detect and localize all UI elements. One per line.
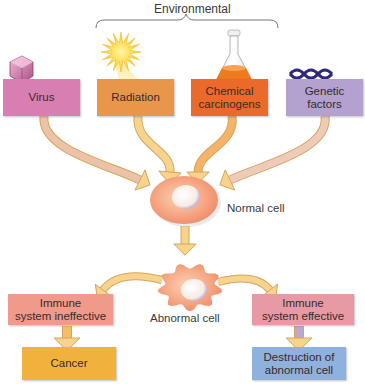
virus-label: Virus bbox=[29, 91, 55, 104]
environmental-bracket bbox=[96, 14, 278, 28]
cancer-label: Cancer bbox=[50, 357, 87, 370]
genetic-factors-box: Genetic factors bbox=[286, 79, 363, 116]
chemical-carcinogens-label: Chemical carcinogens bbox=[198, 85, 260, 111]
arrow-down bbox=[174, 226, 196, 255]
destruction-box: Destruction of abnormal cell bbox=[252, 347, 346, 380]
immune-effective-label: Immune system effective bbox=[262, 297, 344, 323]
immune-effective-box: Immune system effective bbox=[252, 294, 354, 325]
arrow-virus bbox=[44, 116, 150, 190]
radiation-box: Radiation bbox=[97, 79, 174, 116]
chemical-carcinogens-box: Chemical carcinogens bbox=[191, 79, 268, 116]
cancer-box: Cancer bbox=[22, 347, 116, 380]
genetic-factors-label: Genetic factors bbox=[305, 85, 345, 111]
destruction-label: Destruction of abnormal cell bbox=[264, 351, 335, 377]
immune-ineffective-label: Immune system ineffective bbox=[15, 297, 106, 323]
abnormal-cell-label: Abnormal cell bbox=[150, 312, 220, 324]
abnormal-cell bbox=[158, 264, 222, 311]
normal-cell-label: Normal cell bbox=[227, 202, 285, 214]
carcinogenesis-diagram bbox=[0, 0, 365, 384]
normal-cell bbox=[150, 176, 221, 227]
immune-ineffective-box: Immune system ineffective bbox=[8, 294, 113, 325]
environmental-label: Environmental bbox=[154, 2, 231, 16]
radiation-label: Radiation bbox=[111, 91, 160, 104]
dna-icon bbox=[290, 70, 332, 78]
arrow-normal-to-abnormal bbox=[174, 226, 196, 255]
virus-box: Virus bbox=[3, 79, 80, 116]
